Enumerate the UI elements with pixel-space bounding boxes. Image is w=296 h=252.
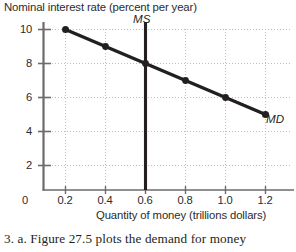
money-supply-curve-label: MS bbox=[133, 12, 151, 25]
money-demand-curve bbox=[66, 30, 266, 115]
figure-container: Nominal interest rate (percent per year) bbox=[0, 0, 296, 252]
x-tick-label-0-4: 0.4 bbox=[90, 194, 120, 206]
x-tick-label-1-2: 1.2 bbox=[250, 194, 280, 206]
y-tick-label-2: 2 bbox=[8, 159, 32, 171]
data-point bbox=[62, 26, 69, 33]
data-point bbox=[222, 94, 229, 101]
x-tick-label-0-8: 0.8 bbox=[170, 194, 200, 206]
data-point bbox=[182, 77, 189, 84]
x-tick-label-1-0: 1.0 bbox=[210, 194, 240, 206]
x-axis-title: Quantity of money (trillions dollars) bbox=[96, 209, 266, 221]
figure-caption: 3. a. Figure 27.5 plots the demand for m… bbox=[4, 231, 294, 247]
data-point bbox=[142, 60, 149, 67]
x-tick-label-0-6: 0.6 bbox=[130, 194, 160, 206]
y-tick-label-6: 6 bbox=[8, 91, 32, 103]
y-tick-label-4: 4 bbox=[8, 125, 32, 137]
y-tick-label-8: 8 bbox=[8, 57, 32, 69]
x-tick-label-0-2: 0.2 bbox=[50, 194, 80, 206]
y-gridlines bbox=[43, 30, 292, 166]
x-tick-label-0: 0 bbox=[10, 194, 40, 206]
money-demand-curve-label: MD bbox=[266, 112, 284, 125]
y-tick-label-10: 10 bbox=[8, 23, 32, 35]
data-point bbox=[102, 43, 109, 50]
